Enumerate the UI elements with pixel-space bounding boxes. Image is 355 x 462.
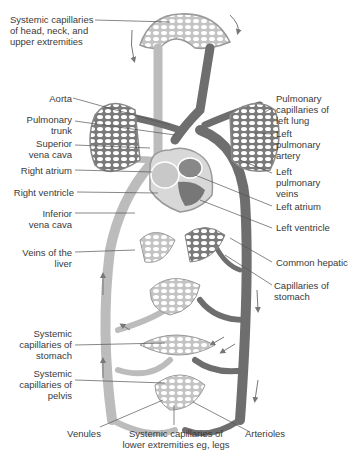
label-pulmonary-capillaries-left-lung: Pulmonary capillaries of left lung [276, 93, 329, 126]
label-systemic-capillaries-lower-extremities: Systemic capillaries of lower extremitie… [118, 428, 234, 450]
label-left-pulmonary-veins: Left pulmonary veins [276, 166, 320, 199]
label-left-ventricle: Left ventricle [276, 222, 330, 233]
label-systemic-capillaries-stomach: Systemic capillaries of stomach [5, 328, 72, 361]
stomach-capillaries [150, 279, 200, 315]
label-common-hepatic: Common hepatic [276, 257, 348, 268]
label-left-atrium: Left atrium [276, 201, 321, 212]
label-venules: Venules [64, 428, 104, 439]
label-right-ventricle: Right ventricle [0, 187, 74, 198]
label-inferior-vena-cava: Inferior vena cava [10, 208, 72, 230]
left-lung-capillaries [230, 104, 279, 172]
heart [150, 148, 213, 212]
right-lung-capillaries [90, 104, 140, 172]
label-systemic-capillaries-pelvis: Systemic capillaries of pelvis [5, 368, 72, 401]
head-capillaries [140, 14, 230, 49]
systemic-stomach-capillaries [140, 335, 215, 355]
label-arterioles: Arterioles [240, 428, 290, 439]
label-systemic-capillaries-head: Systemic capillaries of head, neck, and … [10, 14, 93, 47]
label-aorta: Aorta [20, 93, 72, 104]
label-capillaries-of-stomach: Capillaries of stomach [274, 280, 329, 302]
label-superior-vena-cava: Superior vena cava [10, 138, 72, 160]
label-right-atrium: Right atrium [0, 165, 72, 176]
label-left-pulmonary-artery: Left pulmonary artery [276, 128, 320, 161]
liver-capillaries [140, 228, 225, 263]
label-pulmonary-trunk: Pulmonary trunk [10, 114, 72, 136]
label-veins-of-liver: Veins of the liver [5, 247, 72, 269]
